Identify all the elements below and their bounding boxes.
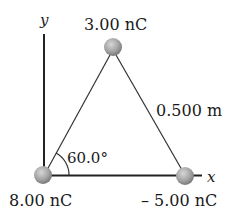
angle-label: 60.0° (67, 149, 108, 167)
charge-top-sphere (104, 38, 122, 56)
charge-bottom-right-sphere (176, 167, 194, 185)
charge-bottom-right-label: – 5.00 nC (141, 191, 217, 210)
charge-bottom-left-label: 8.00 nC (9, 191, 72, 210)
charge-top-label: 3.00 nC (84, 15, 147, 34)
charge-triangle-diagram: y x 3.00 nC 8.00 nC – 5.00 nC 0.500 m 60… (0, 0, 245, 217)
x-axis-label: x (207, 168, 216, 186)
side-length-label: 0.500 m (156, 101, 222, 120)
charge-bottom-left-sphere (34, 166, 52, 184)
y-axis-label: y (39, 11, 49, 29)
